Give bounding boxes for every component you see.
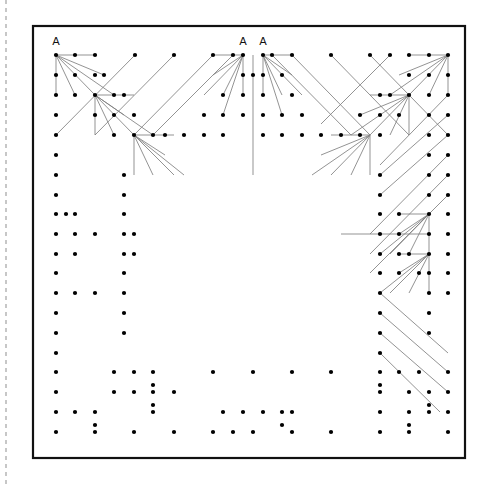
grid-dot: [427, 252, 431, 256]
grid-dot: [446, 193, 450, 197]
label-group: AAA: [52, 35, 267, 48]
grid-dot: [280, 73, 284, 77]
grid-dot: [132, 370, 136, 374]
grid-dot: [54, 291, 58, 295]
grid-dot: [93, 232, 97, 236]
grid-dot: [329, 370, 333, 374]
grid-dot: [151, 133, 155, 137]
grid-dot: [378, 271, 382, 275]
grid-dot: [378, 430, 382, 434]
grid-dot: [427, 390, 431, 394]
grid-dot: [446, 73, 450, 77]
diagram-svg: AAA: [0, 0, 498, 484]
grid-dot: [151, 383, 155, 387]
grid-dot: [122, 291, 126, 295]
grid-dot: [290, 53, 294, 57]
grid-dot: [112, 390, 116, 394]
grid-dot: [54, 73, 58, 77]
label-a-left: A: [52, 35, 60, 48]
grid-dot: [378, 331, 382, 335]
grid-dot: [54, 133, 58, 137]
connector-line: [292, 55, 370, 135]
grid-dot: [397, 113, 401, 117]
grid-dot: [54, 311, 58, 315]
grid-dot: [261, 53, 265, 57]
grid-dot: [407, 93, 411, 97]
grid-dot: [93, 291, 97, 295]
grid-dot: [446, 252, 450, 256]
grid-dot: [54, 232, 58, 236]
grid-dot: [358, 113, 362, 117]
grid-dot: [290, 430, 294, 434]
grid-dot: [231, 53, 235, 57]
grid-dot: [378, 390, 382, 394]
connector-line: [380, 353, 440, 412]
grid-dot: [427, 53, 431, 57]
grid-dot: [132, 232, 136, 236]
grid-dot: [54, 351, 58, 355]
grid-dot: [163, 133, 167, 137]
grid-dot: [93, 113, 97, 117]
grid-dot: [378, 311, 382, 315]
grid-dot: [280, 410, 284, 414]
grid-dot: [446, 232, 450, 236]
grid-dot: [427, 311, 431, 315]
grid-dot: [378, 410, 382, 414]
grid-dot: [261, 73, 265, 77]
grid-dot: [112, 133, 116, 137]
grid-dot: [339, 133, 343, 137]
connector-line: [390, 55, 448, 95]
grid-dot: [202, 113, 206, 117]
grid-dot: [132, 252, 136, 256]
grid-dot: [378, 232, 382, 236]
grid-dot: [54, 153, 58, 157]
grid-dot: [280, 113, 284, 117]
grid-dot: [202, 133, 206, 137]
grid-dot: [54, 173, 58, 177]
grid-dot: [172, 390, 176, 394]
connector-line: [95, 95, 114, 135]
grid-dot: [54, 93, 58, 97]
grid-dot: [241, 93, 245, 97]
grid-dot: [378, 93, 382, 97]
grid-dot: [122, 271, 126, 275]
grid-dot: [112, 93, 116, 97]
grid-dot: [251, 430, 255, 434]
connector-line: [390, 254, 429, 293]
grid-dot: [54, 390, 58, 394]
grid-dot: [378, 383, 382, 387]
grid-dot: [378, 173, 382, 177]
grid-dot: [280, 133, 284, 137]
grid-dot: [290, 410, 294, 414]
grid-dot: [261, 93, 265, 97]
grid-dot: [427, 113, 431, 117]
connector-line: [272, 55, 351, 135]
connector-group: [56, 55, 448, 412]
grid-dot: [54, 193, 58, 197]
grid-dot: [93, 73, 97, 77]
grid-dot: [407, 423, 411, 427]
grid-dot: [102, 73, 106, 77]
connector-line: [223, 55, 243, 95]
grid-dot: [427, 232, 431, 236]
grid-dot: [221, 93, 225, 97]
connector-line: [134, 135, 184, 175]
grid-dot: [388, 93, 392, 97]
connector-line: [331, 135, 370, 175]
grid-dot: [261, 133, 265, 137]
grid-dot: [261, 410, 265, 414]
grid-dot: [397, 232, 401, 236]
grid-dot: [151, 370, 155, 374]
grid-dot: [151, 390, 155, 394]
grid-dot: [378, 252, 382, 256]
grid-dot: [446, 271, 450, 275]
grid-dot: [54, 410, 58, 414]
frame-group: [33, 26, 465, 458]
connector-line: [56, 55, 75, 95]
connector-line: [223, 55, 243, 115]
grid-dot: [73, 232, 77, 236]
connector-line: [263, 55, 282, 95]
grid-dot: [182, 133, 186, 137]
grid-dot: [211, 430, 215, 434]
grid-dot: [446, 430, 450, 434]
